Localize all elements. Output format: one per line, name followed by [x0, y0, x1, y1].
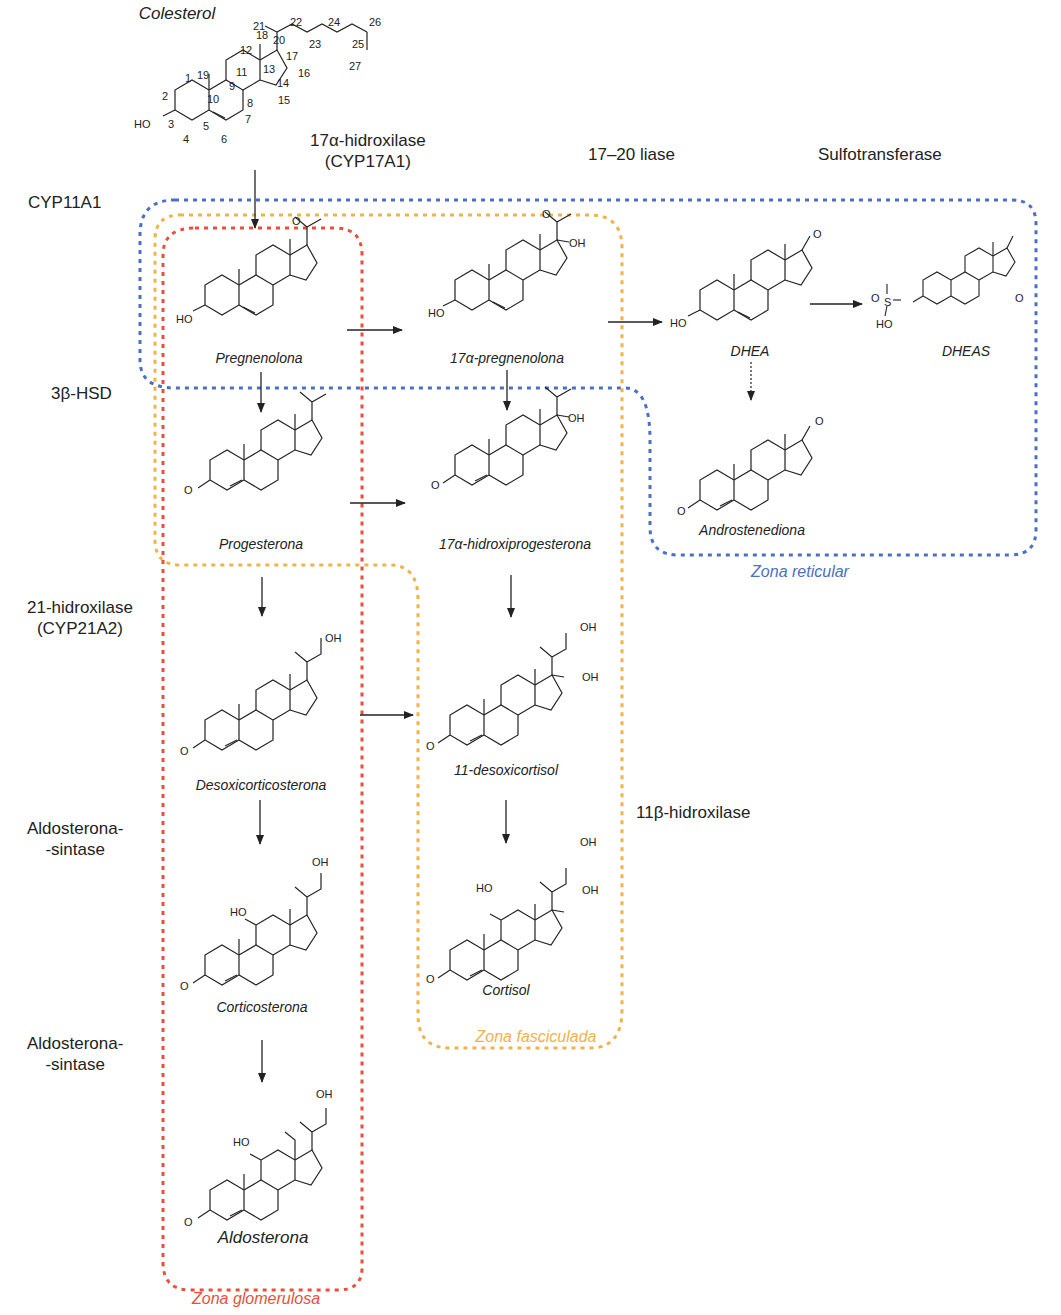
molecule-11-desoxicortisol [438, 633, 566, 745]
zone-label-reticular: Zona reticular [751, 563, 849, 581]
enzyme-line: Aldosterona- [27, 818, 123, 839]
atom-label-oh: OH [582, 671, 599, 683]
atom-number: 8 [247, 97, 253, 109]
atom-number: 9 [229, 80, 235, 92]
molecule-17-hidroxiprogesterona [443, 387, 571, 485]
compound-11-desoxicortisol: 11-desoxicortisol [454, 762, 558, 778]
enzyme-aldosterona-sintase-2: Aldosterona- -sintase [27, 1033, 123, 1075]
atom-label-o: O [1015, 292, 1024, 304]
atom-label-oh: OH [568, 412, 585, 424]
compound-progesterona: Progesterona [219, 536, 303, 552]
atom-label-o: O [677, 505, 686, 517]
enzyme-sulfotransferase: Sulfotransferase [818, 144, 942, 165]
atom-label-o: O [813, 228, 822, 240]
atom-number: 14 [277, 77, 289, 89]
atom-number: 20 [273, 34, 285, 46]
atom-number: 22 [290, 16, 302, 28]
enzyme-cyp11a1: CYP11A1 [28, 192, 101, 213]
enzyme-11b-hidroxilase: 11β-hidroxilase [636, 802, 750, 823]
atom-number: 1 [185, 72, 191, 84]
atom-label-oh: OH [582, 884, 599, 896]
atom-number: 19 [197, 69, 209, 81]
atom-label-oh: OH [580, 836, 597, 848]
atom-number: 11 [236, 66, 247, 78]
compound-cortisol: Cortisol [482, 982, 529, 998]
enzyme-line: (CYP21A2) [27, 618, 133, 639]
enzyme-21-hidroxilase: 21-hidroxilase (CYP21A2) [27, 597, 133, 639]
compound-corticosterona: Corticosterona [216, 999, 307, 1015]
molecule-structures [0, 0, 1061, 1315]
atom-label-ho: HO [876, 318, 893, 330]
atom-label-ho: HO [428, 307, 445, 319]
atom-number: 4 [183, 133, 189, 145]
enzyme-aldosterona-sintase-1: Aldosterona- -sintase [27, 818, 123, 860]
enzyme-line: 17α-hidroxilase [310, 130, 426, 151]
atom-label-o: O [815, 415, 824, 427]
atom-number: 17 [286, 50, 298, 62]
atom-label-oh: OH [316, 1088, 333, 1100]
atom-number: 15 [278, 94, 290, 106]
atom-label-oh: OH [312, 856, 329, 868]
atom-label-s: S [884, 296, 891, 308]
atom-number: 27 [349, 60, 361, 72]
atom-label-o: O [184, 484, 193, 496]
atom-number: 16 [298, 67, 310, 79]
atom-number: 2 [162, 90, 168, 102]
enzyme-line: Aldosterona- [27, 1033, 123, 1054]
atom-label-ho: HO [233, 1136, 250, 1148]
molecule-17-pregnenolona [443, 212, 571, 310]
molecule-desoxicorticosterona [193, 638, 321, 750]
atom-label-oh: OH [569, 237, 586, 249]
atom-number: 5 [203, 120, 209, 132]
atom-label-o: O [871, 292, 880, 304]
atom-label-o: O [180, 980, 189, 992]
atom-label-o: O [431, 479, 440, 491]
enzyme-line: (CYP17A1) [310, 151, 426, 172]
enzyme-3b-hsd: 3β-HSD [51, 383, 112, 404]
atom-label-oh: OH [580, 621, 597, 633]
enzyme-17-20-liase: 17–20 liase [588, 144, 675, 165]
atom-number: 25 [352, 38, 364, 50]
molecule-androstenediona [688, 426, 812, 510]
enzyme-17a-hidroxilase: 17α-hidroxilase (CYP17A1) [310, 130, 426, 172]
enzyme-line: -sintase [27, 839, 123, 860]
atom-label-o: O [542, 208, 551, 220]
molecule-pregnenolona [193, 217, 321, 315]
atom-label-ho: HO [134, 118, 151, 130]
zone-label-fasciculada: Zona fasciculada [476, 1028, 597, 1046]
molecule-dheas [885, 236, 1015, 316]
atom-label-o: O [180, 745, 189, 757]
atom-number: 12 [240, 44, 252, 56]
atom-number: 3 [168, 118, 174, 130]
atom-label-ho: HO [476, 882, 493, 894]
compound-17a-hidroxiprogesterona: 17α-hidroxiprogesterona [439, 536, 591, 552]
molecule-corticosterona [193, 873, 321, 985]
atom-number: 7 [245, 113, 251, 125]
atom-label-o: O [426, 740, 435, 752]
compound-desoxicorticosterona: Desoxicorticosterona [196, 777, 327, 793]
atom-label-ho: HO [176, 313, 193, 325]
compound-17a-pregnenolona: 17α-pregnenolona [450, 350, 564, 366]
atom-number: 6 [221, 133, 227, 145]
atom-label-o: O [426, 973, 435, 985]
molecule-cortisol [438, 868, 566, 980]
atom-number: 23 [309, 38, 321, 50]
compound-pregnenolona: Pregnenolona [215, 350, 302, 366]
compound-dheas: DHEAS [942, 343, 990, 359]
compound-dhea: DHEA [731, 343, 770, 359]
compound-androstenediona: Androstenediona [699, 522, 805, 538]
atom-label-ho: HO [670, 317, 687, 329]
atom-number: 13 [263, 63, 275, 75]
molecule-aldosterona [198, 1108, 326, 1220]
atom-number: 10 [207, 93, 219, 105]
enzyme-line: -sintase [27, 1054, 123, 1075]
atom-label-o: O [292, 215, 301, 227]
zone-label-glomerulosa: Zona glomerulosa [192, 1290, 320, 1308]
compound-aldosterona: Aldosterona [218, 1228, 309, 1248]
atom-number: 24 [328, 16, 340, 28]
enzyme-line: 21-hidroxilase [27, 597, 133, 618]
compound-colesterol: Colesterol [139, 4, 216, 24]
atom-number: 21 [253, 20, 265, 32]
atom-label-o: O [184, 1216, 193, 1228]
atom-label-ho: HO [230, 906, 247, 918]
